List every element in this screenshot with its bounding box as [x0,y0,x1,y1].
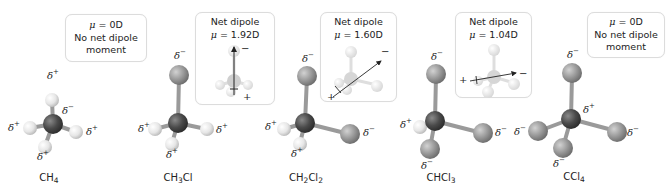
ch4-mu-value: μ = 0D [66,19,146,32]
chcl3-dipole-box: Net dipole μ = 1.04D − + [455,12,532,98]
chcl3-arrow-plus: + [459,74,467,87]
ch3cl-charge-left: δ+ [138,123,150,134]
chcl3-charge-left: δ+ [400,119,412,130]
formula-chcl3: CHCl3 [426,172,455,183]
ch3cl-arrow-minus: − [241,43,249,56]
ch4-charge-carbon: δ− [62,105,74,116]
ch4-atoms [23,93,83,154]
ch2cl2-charge-right: δ− [363,127,375,138]
ch2cl2-charge-top: δ− [302,53,314,64]
formula-ch2cl2: CH2Cl2 [289,172,323,183]
chcl3-arrow-minus: − [519,68,527,81]
ch3cl-dipole-box: Net dipole μ = 1.92D − + [195,12,275,105]
ch2cl2-charge-left: δ+ [265,121,277,132]
formula-ch4: CH4 [39,172,58,183]
ch2cl2-arrow-minus: − [381,46,389,59]
ch3cl-charge-bottom: δ+ [166,149,178,160]
chcl3-charge-bottom: δ− [421,160,433,171]
ch4-charge-top: δ+ [47,70,59,81]
ch4-no-dipole-text: No net dipole [66,32,146,45]
formula-ch3cl: CH3Cl [163,172,192,183]
ch2cl2-box-title: Net dipole [321,16,396,29]
ch2cl2-mu-value: μ = 1.60D [321,29,396,42]
ch3cl-box-title: Net dipole [196,16,274,29]
chcl3-charge-top: δ− [431,51,443,62]
ccl4-charge-top: δ− [567,49,579,60]
ch4-charge-bottom: δ+ [37,151,49,162]
ch3cl-charge-cl: δ− [174,50,186,61]
ch4-moment-text: moment [66,44,146,57]
ccl4-moment-text: moment [588,41,664,54]
ccl4-mu-value: μ = 0D [588,16,664,29]
ch2cl2-arrow-plus: + [327,91,335,104]
dipole-moment-figure: μ = 0D No net dipole moment Net dipole μ… [0,0,670,191]
ch4-charge-right: δ+ [86,126,98,137]
ch4-dipole-box: μ = 0D No net dipole moment [65,14,147,62]
ch3cl-dipole-arrow-diagram [196,41,276,103]
ccl4-model [539,75,616,147]
ccl4-dipole-box: μ = 0D No net dipole moment [587,12,665,58]
ch2cl2-dipole-box: Net dipole μ = 1.60D − + [320,12,397,102]
ccl4-no-dipole-text: No net dipole [588,29,664,42]
ch3cl-mu-value: μ = 1.92D [196,29,274,42]
chcl3-box-title: Net dipole [456,16,531,29]
ch3cl-charge-right: δ+ [216,124,228,135]
chcl3-charge-right: δ− [495,127,507,138]
ch4-charge-left: δ+ [8,122,20,133]
ccl4-atoms [528,63,627,158]
ch3cl-arrow-plus: + [243,91,251,104]
ccl4-charge-right: δ− [627,127,639,138]
formula-ccl4: CCl4 [563,171,585,182]
ccl4-charge-carbon: δ+ [583,104,595,115]
ccl4-charge-left: δ− [514,126,526,137]
ch2cl2-charge-bottom: δ+ [291,148,303,159]
ccl4-charge-bottom: δ− [553,158,565,169]
